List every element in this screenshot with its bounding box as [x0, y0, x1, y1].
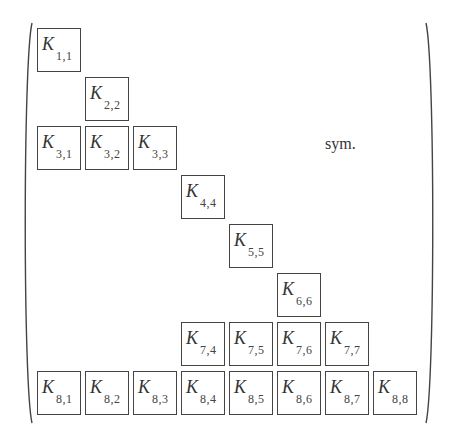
block-symbol: K: [90, 377, 102, 398]
block-symbol: K: [234, 328, 246, 349]
matrix-block-8-6: K8,6: [277, 371, 321, 415]
matrix-block-8-4: K8,4: [181, 371, 225, 415]
matrix-block-3-3: K3,3: [133, 126, 177, 170]
block-subscript: 6,6: [296, 294, 313, 309]
block-subscript: 5,5: [248, 245, 265, 260]
block-subscript: 3,2: [104, 147, 121, 162]
matrix-block-2-2: K2,2: [85, 77, 129, 121]
matrix-block-4-4: K4,4: [181, 175, 225, 219]
block-subscript: 8,8: [392, 392, 409, 407]
block-subscript: 7,4: [200, 343, 217, 358]
block-symbol: K: [234, 377, 246, 398]
matrix-block-3-1: K3,1: [37, 126, 81, 170]
block-symbol: K: [234, 230, 246, 251]
symmetry-label: sym.: [325, 135, 356, 153]
block-subscript: 3,3: [152, 147, 169, 162]
matrix-block-1-1: K1,1: [37, 28, 81, 72]
block-symbol: K: [186, 328, 198, 349]
matrix-block-7-7: K7,7: [325, 322, 369, 366]
block-symbol: K: [186, 181, 198, 202]
matrix-block-5-5: K5,5: [229, 224, 273, 268]
block-subscript: 7,7: [344, 343, 361, 358]
block-subscript: 2,2: [104, 98, 121, 113]
matrix-block-6-6: K6,6: [277, 273, 321, 317]
right-parenthesis: [424, 22, 438, 424]
matrix-block-7-4: K7,4: [181, 322, 225, 366]
matrix-block-8-7: K8,7: [325, 371, 369, 415]
matrix-block-8-5: K8,5: [229, 371, 273, 415]
block-symbol: K: [90, 83, 102, 104]
block-symbol: K: [330, 377, 342, 398]
block-subscript: 4,4: [200, 196, 217, 211]
block-symbol: K: [90, 132, 102, 153]
matrix-block-7-5: K7,5: [229, 322, 273, 366]
block-subscript: 3,1: [56, 147, 73, 162]
block-symbol: K: [282, 328, 294, 349]
matrix-block-8-3: K8,3: [133, 371, 177, 415]
block-symbol: K: [138, 132, 150, 153]
block-subscript: 1,1: [56, 49, 73, 64]
block-symbol: K: [42, 132, 54, 153]
matrix-block-8-8: K8,8: [373, 371, 417, 415]
block-symbol: K: [186, 377, 198, 398]
block-subscript: 8,6: [296, 392, 313, 407]
block-subscript: 7,5: [248, 343, 265, 358]
matrix-block-3-2: K3,2: [85, 126, 129, 170]
block-subscript: 8,5: [248, 392, 265, 407]
block-symbol: K: [42, 34, 54, 55]
left-parenthesis: [20, 22, 34, 424]
matrix-block-8-1: K8,1: [37, 371, 81, 415]
block-subscript: 8,4: [200, 392, 217, 407]
block-symbol: K: [138, 377, 150, 398]
block-subscript: 8,1: [56, 392, 73, 407]
matrix-block-8-2: K8,2: [85, 371, 129, 415]
matrix-block-7-6: K7,6: [277, 322, 321, 366]
block-subscript: 8,2: [104, 392, 121, 407]
block-subscript: 7,6: [296, 343, 313, 358]
block-symbol: K: [378, 377, 390, 398]
block-symbol: K: [282, 377, 294, 398]
block-symbol: K: [282, 279, 294, 300]
block-subscript: 8,7: [344, 392, 361, 407]
block-symbol: K: [42, 377, 54, 398]
block-symbol: K: [330, 328, 342, 349]
block-subscript: 8,3: [152, 392, 169, 407]
